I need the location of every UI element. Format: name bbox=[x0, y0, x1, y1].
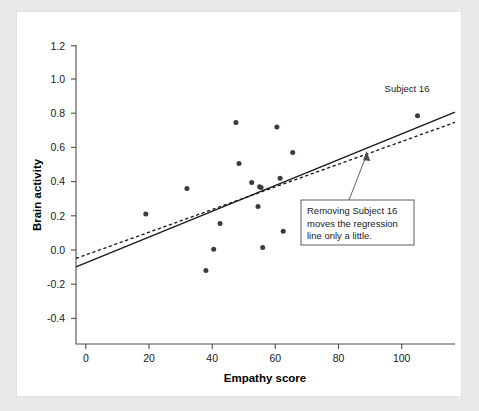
callout-line-1: Removing Subject 16 bbox=[307, 205, 397, 216]
data-point bbox=[203, 268, 208, 273]
data-point bbox=[290, 150, 295, 155]
y-tick-label: 0.8 bbox=[50, 107, 65, 119]
x-tick-label: 100 bbox=[393, 352, 411, 364]
y-tick-label: -0.2 bbox=[47, 278, 65, 290]
y-axis-title: Brain activity bbox=[31, 158, 43, 231]
data-point bbox=[218, 221, 223, 226]
data-points bbox=[143, 113, 420, 273]
data-point bbox=[237, 161, 242, 166]
subject-16-label: Subject 16 bbox=[385, 83, 430, 94]
y-tick-label: 0.2 bbox=[50, 210, 65, 222]
y-tick-label: 0.0 bbox=[50, 244, 65, 256]
figure-panel: 1.2 1.0 0.8 0.6 0.4 0.2 0.0 -0.2 -0.4 0 … bbox=[17, 12, 461, 396]
y-tick-label: 1.2 bbox=[50, 40, 65, 52]
callout-line-3: line only a little. bbox=[307, 230, 372, 241]
data-point bbox=[278, 176, 283, 181]
x-tick-label: 0 bbox=[83, 352, 89, 364]
y-tick-marks bbox=[71, 46, 76, 319]
scatter-plot: 1.2 1.0 0.8 0.6 0.4 0.2 0.0 -0.2 -0.4 0 … bbox=[17, 12, 461, 396]
x-axis-tick-labels: 0 20 40 60 80 100 bbox=[83, 352, 411, 364]
data-point bbox=[274, 124, 279, 129]
data-point bbox=[249, 180, 254, 185]
data-point bbox=[143, 212, 148, 217]
data-point bbox=[259, 185, 264, 190]
x-tick-label: 40 bbox=[206, 352, 218, 364]
callout-arrow-head bbox=[363, 151, 370, 161]
data-point bbox=[233, 120, 238, 125]
x-axis-title: Empathy score bbox=[224, 372, 306, 384]
data-point bbox=[260, 245, 265, 250]
x-tick-label: 20 bbox=[143, 352, 155, 364]
callout-line-2: moves the regression bbox=[307, 218, 398, 229]
y-tick-label: 0.4 bbox=[50, 175, 65, 187]
data-point bbox=[211, 247, 216, 252]
y-tick-label: 1.0 bbox=[50, 73, 65, 85]
x-tick-label: 80 bbox=[333, 352, 345, 364]
y-tick-label: -0.4 bbox=[47, 312, 65, 324]
y-axis-tick-labels: 1.2 1.0 0.8 0.6 0.4 0.2 0.0 -0.2 -0.4 bbox=[47, 40, 65, 325]
x-tick-label: 60 bbox=[269, 352, 281, 364]
x-tick-marks bbox=[86, 344, 402, 349]
data-point-subject-16 bbox=[415, 113, 420, 118]
data-point bbox=[184, 186, 189, 191]
callout-leader-line bbox=[349, 155, 367, 200]
data-point bbox=[281, 229, 286, 234]
y-tick-label: 0.6 bbox=[50, 141, 65, 153]
data-point bbox=[256, 204, 261, 209]
